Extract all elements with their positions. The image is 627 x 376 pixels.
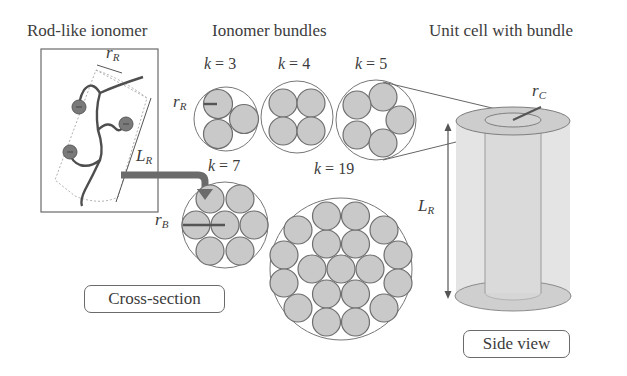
k3-label: k = 3 [204, 55, 236, 73]
bundle-k4 [261, 81, 333, 153]
L-R-rod-label: LR [136, 146, 152, 166]
k5-label: k = 5 [355, 55, 387, 73]
r-C-label: rC [532, 81, 546, 101]
r-R-rod-label: rR [106, 43, 119, 63]
diagram-canvas [0, 0, 627, 376]
bundle-k19 [270, 198, 412, 340]
r-B-label: rB [155, 210, 168, 230]
L-R-cell-label: LR [418, 196, 434, 216]
cross-section-label: Cross-section [84, 285, 225, 313]
side-view-label: Side view [463, 330, 570, 358]
k19-label: k = 19 [314, 160, 354, 178]
bundle-k3 [194, 87, 259, 151]
unit-cell-cylinder [445, 107, 572, 311]
bundle-k7 [182, 182, 268, 268]
k7-label: k = 7 [208, 157, 240, 175]
r-R-bundle-label: rR [173, 92, 186, 112]
k4-label: k = 4 [278, 55, 310, 73]
rod-ionomer-panel [41, 49, 158, 212]
